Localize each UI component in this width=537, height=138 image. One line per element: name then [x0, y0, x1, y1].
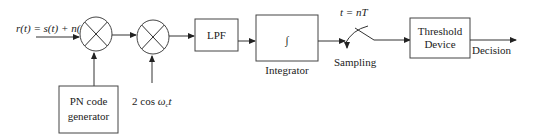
sampling-caption: Sampling	[334, 56, 377, 68]
block-diagram: r(t) = s(t) + n(t) PN code generator 2 c…	[0, 0, 537, 138]
pn-generator-label-1: PN code	[70, 95, 108, 107]
threshold-label-2: Device	[424, 38, 455, 50]
integrator-caption: Integrator	[265, 64, 309, 76]
pn-generator-label-2: generator	[68, 110, 110, 122]
threshold-label-1: Threshold	[418, 25, 463, 37]
decision-label: Decision	[472, 44, 512, 56]
sampling-time-label: t = nT	[340, 6, 368, 18]
mixer-2-multiplier-icon	[137, 20, 169, 54]
lpf-label: LPF	[207, 29, 226, 41]
mixer-1-multiplier-icon	[80, 17, 112, 51]
sampling-switch-icon	[345, 26, 402, 48]
carrier-label: 2 cos ωct	[132, 95, 173, 109]
input-signal-label: r(t) = s(t) + n(t)	[16, 22, 87, 35]
